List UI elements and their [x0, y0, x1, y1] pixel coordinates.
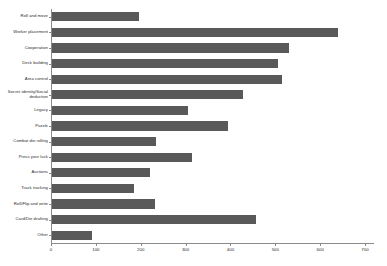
bar: [51, 43, 289, 52]
y-axis-tick: [49, 17, 51, 18]
y-axis-tick: [49, 64, 51, 65]
y-axis-tick-label: Area control: [25, 77, 48, 82]
y-axis-tick: [49, 220, 51, 221]
y-axis-tick-label: Worker placement: [13, 30, 48, 35]
x-axis-tick: [365, 243, 366, 246]
bar-row: [51, 43, 374, 52]
bar-row: [51, 231, 374, 240]
y-axis-tick-label: Press your luck: [19, 155, 48, 160]
x-axis-tick-label: 300: [182, 247, 189, 252]
bar-row: [51, 12, 374, 21]
y-axis-tick: [49, 48, 51, 49]
bar-row: [51, 137, 374, 146]
bar-row: [51, 75, 374, 84]
bar: [51, 12, 139, 21]
bar: [51, 59, 278, 68]
plot-area: [51, 9, 374, 243]
bar: [51, 184, 134, 193]
y-axis-tick: [49, 157, 51, 158]
y-axis-tick: [49, 79, 51, 80]
bar-row: [51, 59, 374, 68]
bar-row: [51, 106, 374, 115]
x-axis-tick: [230, 243, 231, 246]
bar-row: [51, 121, 374, 130]
y-axis-tick-label: Auctions: [32, 170, 48, 175]
x-axis-tick: [96, 243, 97, 246]
y-axis-tick-label: Puzzle: [35, 124, 48, 129]
x-axis-tick: [141, 243, 142, 246]
bar: [51, 231, 92, 240]
y-axis-tick: [49, 188, 51, 189]
x-axis-tick: [51, 243, 52, 246]
bar-row: [51, 168, 374, 177]
y-axis-tick-label: Legacy: [34, 108, 48, 113]
x-axis-tick-label: 600: [316, 247, 323, 252]
y-axis-tick-label: Track tracking: [21, 186, 48, 191]
bar-row: [51, 90, 374, 99]
bar-row: [51, 184, 374, 193]
bar-row: [51, 28, 374, 37]
y-axis-tick-label: Cooperation: [25, 46, 48, 51]
y-axis-tick: [49, 126, 51, 127]
x-axis-tick-label: 400: [227, 247, 234, 252]
y-axis-tick: [49, 110, 51, 111]
x-axis-tick: [275, 243, 276, 246]
bar: [51, 137, 156, 146]
bar-row: [51, 215, 374, 224]
y-axis-tick: [49, 235, 51, 236]
bar: [51, 153, 192, 162]
y-axis-tick-label: Card/Die drafting: [15, 217, 48, 222]
bar: [51, 168, 150, 177]
x-axis-tick: [186, 243, 187, 246]
y-axis-tick-label: Secret identity/Social deduction: [0, 90, 48, 100]
bar: [51, 75, 282, 84]
y-axis-tick-label: Roll/Flip and write: [14, 202, 48, 207]
x-axis-spine: 0100200300400500600700: [51, 243, 374, 244]
y-axis-tick: [49, 95, 51, 96]
x-axis-tick-label: 700: [361, 247, 368, 252]
bar: [51, 90, 243, 99]
x-axis-tick-label: 500: [272, 247, 279, 252]
bar: [51, 121, 228, 130]
y-axis-tick: [49, 173, 51, 174]
y-axis-tick: [49, 142, 51, 143]
bar: [51, 106, 188, 115]
bar: [51, 215, 256, 224]
x-axis-tick-label: 200: [137, 247, 144, 252]
y-axis-tick: [49, 32, 51, 33]
bar: [51, 28, 338, 37]
bar: [51, 199, 155, 208]
bar-row: [51, 153, 374, 162]
bar-chart: 0100200300400500600700 Roll and moveWork…: [0, 0, 387, 266]
x-axis-tick: [320, 243, 321, 246]
y-axis-tick-label: Other: [37, 233, 48, 238]
bar-row: [51, 199, 374, 208]
y-axis-tick: [49, 204, 51, 205]
x-axis-tick-label: 100: [92, 247, 99, 252]
y-axis-tick-label: Combat die rolling: [13, 139, 48, 144]
x-axis-tick-label: 0: [50, 247, 52, 252]
y-axis-spine: [51, 9, 52, 243]
y-axis-tick-label: Deck building: [22, 61, 48, 66]
y-axis-tick-label: Roll and move: [21, 14, 48, 19]
